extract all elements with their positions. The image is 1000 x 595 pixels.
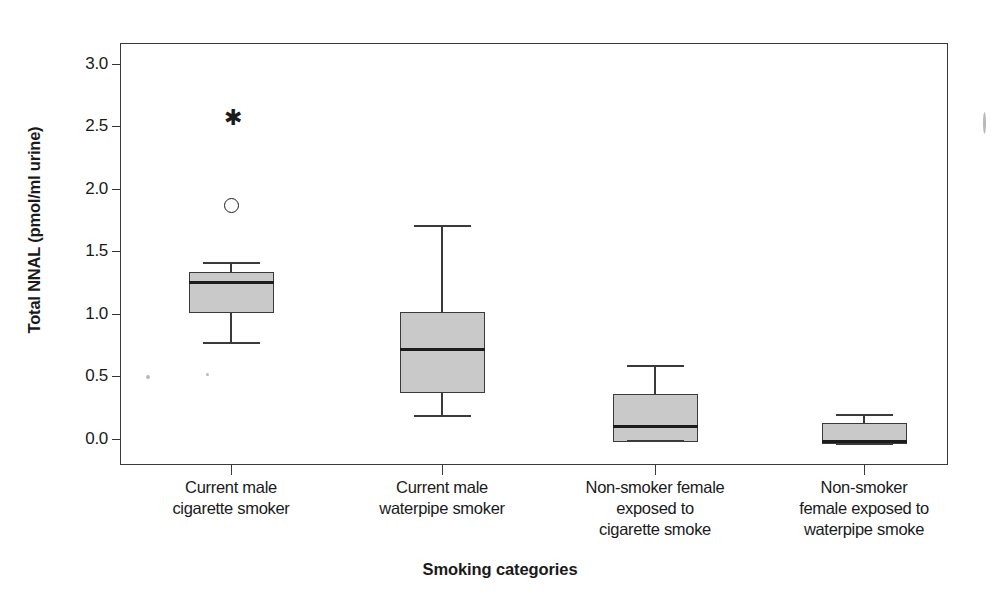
x-tick-label-3-line1: Non-smoker female — [550, 477, 760, 498]
x-tick-label-2-line2: waterpipe smoker — [337, 498, 547, 519]
y-axis-title: Total NNAL (pmol/ml urine) — [14, 10, 54, 450]
y-axis-tick-labels: 3.0 2.5 2.0 1.5 1.0 0.5 0.0 — [56, 0, 108, 595]
x-tick-mark-1 — [231, 465, 232, 475]
x-tick-label-1-line1: Current male — [126, 477, 336, 498]
y-tick-label-0-0: 0.0 — [60, 430, 108, 447]
y-tick-label-1-5: 1.5 — [60, 242, 108, 259]
scan-speck — [983, 112, 986, 134]
x-tick-mark-4 — [864, 465, 865, 475]
y-tick-label-2-5: 2.5 — [60, 117, 108, 134]
x-axis-title: Smoking categories — [0, 560, 1000, 579]
x-tick-label-4: Non-smoker female exposed to waterpipe s… — [759, 477, 969, 540]
x-tick-mark-2 — [442, 465, 443, 475]
y-tick-label-3-0: 3.0 — [60, 55, 108, 72]
x-tick-label-2: Current male waterpipe smoker — [337, 477, 547, 519]
x-tick-label-1-line2: cigarette smoker — [126, 498, 336, 519]
y-tick-label-0-5: 0.5 — [60, 367, 108, 384]
boxplot-figure: Total NNAL (pmol/ml urine) 3.0 2.5 2.0 1… — [0, 0, 1000, 595]
x-tick-label-3: Non-smoker female exposed to cigarette s… — [550, 477, 760, 540]
x-tick-label-4-line3: waterpipe smoke — [759, 519, 969, 540]
plot-area — [120, 43, 948, 465]
y-tick-label-2-0: 2.0 — [60, 180, 108, 197]
x-tick-label-4-line1: Non-smoker — [759, 477, 969, 498]
y-tick-label-1-0: 1.0 — [60, 305, 108, 322]
x-tick-label-3-line2: exposed to — [550, 498, 760, 519]
x-tick-mark-3 — [655, 465, 656, 475]
x-tick-label-1: Current male cigarette smoker — [126, 477, 336, 519]
x-tick-label-2-line1: Current male — [337, 477, 547, 498]
x-tick-label-3-line3: cigarette smoke — [550, 519, 760, 540]
x-tick-label-4-line2: female exposed to — [759, 498, 969, 519]
